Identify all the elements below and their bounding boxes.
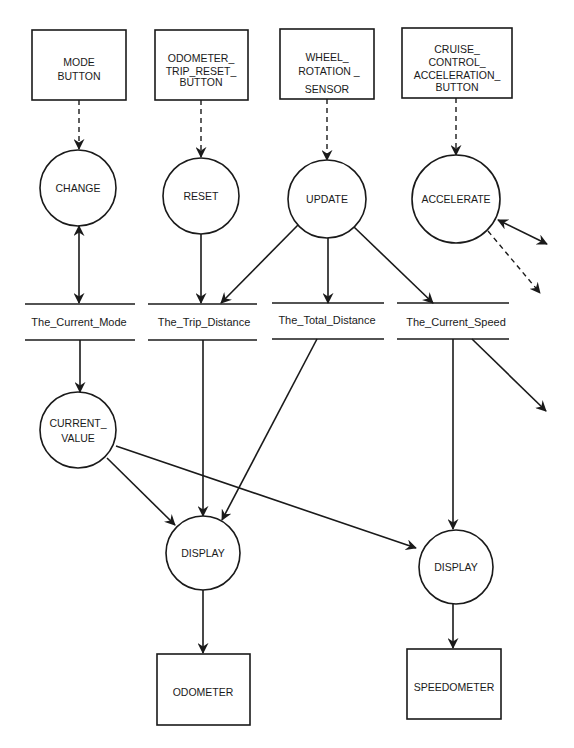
terminator-label: ODOMETER (173, 686, 234, 698)
terminator-label: MODE (63, 56, 95, 68)
data-store-label: The_Trip_Distance (158, 316, 251, 328)
process-label: CHANGE (56, 182, 101, 194)
data-store-current-speed: The_Current_Speed (397, 303, 509, 339)
data-store-label: The_Total_Distance (278, 314, 375, 326)
flow-arrow (472, 339, 546, 411)
process-display-odometer: DISPLAY (166, 516, 240, 590)
flow-arrow (116, 446, 416, 548)
flow-arrow (354, 227, 433, 303)
terminator-label: SENSOR (305, 83, 350, 95)
terminator-label: WHEEL_ (305, 51, 348, 63)
flow-arrow (221, 225, 298, 303)
terminator-label: ROTATION _ (298, 65, 360, 77)
terminator-mode-button: MODE BUTTON (32, 30, 126, 100)
process-label: CURRENT_ (49, 417, 106, 429)
terminator-cruise-control-acceleration-button: CRUISE_ CONTROL_ ACCELERATION_ BUTTON (402, 28, 512, 98)
process-accelerate: ACCELERATE (412, 155, 500, 243)
process-label: ACCELERATE (421, 193, 490, 205)
terminator-label: BUTTON (58, 70, 101, 82)
data-store-total-distance: The_Total_Distance (272, 303, 384, 339)
terminator-speedometer: SPEEDOMETER (407, 649, 501, 719)
process-display-speedometer: DISPLAY (419, 530, 493, 604)
terminator-label: CRUISE_ (434, 43, 480, 55)
process-label: DISPLAY (434, 561, 478, 573)
terminator-wheel-rotation-sensor: WHEEL_ ROTATION _ SENSOR (280, 29, 374, 99)
bidirectional-flow-arrow (498, 220, 547, 244)
process-label: DISPLAY (181, 547, 225, 559)
process-update: UPDATE (288, 160, 366, 238)
terminator-label: SPEEDOMETER (414, 681, 495, 693)
process-change: CHANGE (40, 150, 116, 226)
control-flow-arrow (488, 231, 540, 293)
terminator-label: CONTROL_ (428, 56, 485, 68)
data-store-current-mode: The_Current_Mode (25, 304, 135, 340)
terminator-label: ACCELERATION_ (414, 69, 501, 81)
terminator-label: BUTTON (436, 81, 479, 93)
terminator-label: BUTTON (180, 76, 223, 88)
terminator-label: ODOMETER_ (168, 52, 235, 64)
terminator-odometer: ODOMETER (157, 654, 250, 725)
flow-arrow (222, 339, 317, 520)
data-store-trip-distance: The_Trip_Distance (148, 304, 257, 340)
data-flow-diagram: MODE BUTTON ODOMETER_ TRIP_RESET_ BUTTON… (0, 0, 574, 748)
terminator-odometer-trip-reset-button: ODOMETER_ TRIP_RESET_ BUTTON (155, 30, 248, 100)
process-current-value: CURRENT_ VALUE (40, 392, 116, 468)
data-store-label: The_Current_Mode (31, 316, 126, 328)
process-reset: RESET (163, 158, 239, 234)
data-store-label: The_Current_Speed (406, 316, 506, 328)
flow-arrow (107, 458, 175, 525)
process-label: VALUE (61, 432, 95, 444)
process-label: UPDATE (306, 193, 348, 205)
process-label: RESET (183, 190, 219, 202)
